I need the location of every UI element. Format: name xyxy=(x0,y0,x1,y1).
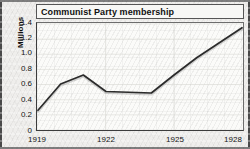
y-tick-label-0-6: 0.6 xyxy=(0,80,32,88)
chart-screenshot: Communist Party membership Millions xyxy=(0,0,250,149)
x-tick-label-1925: 1925 xyxy=(162,136,188,144)
x-tick-label-1922: 1922 xyxy=(93,136,119,144)
y-tick-label-0: 0 xyxy=(0,127,32,135)
x-tick-label-1928: 1928 xyxy=(220,136,246,144)
y-tick-label-0-8: 0.8 xyxy=(0,65,32,73)
y-axis-title: Millions xyxy=(16,17,25,48)
chart-title-banner: Communist Party membership xyxy=(36,4,244,19)
y-tick-label-1-0: 1.0 xyxy=(0,49,32,57)
y-tick-label-0-4: 0.4 xyxy=(0,96,32,104)
chart-plot-svg xyxy=(37,23,243,130)
plot-area xyxy=(36,22,244,131)
y-tick-label-0-2: 0.2 xyxy=(0,111,32,119)
x-tick-label-1919: 1919 xyxy=(24,136,50,144)
page-title: Communist Party membership xyxy=(37,7,174,17)
series-shadow xyxy=(38,29,242,112)
membership-line xyxy=(38,28,242,111)
gridlines-horizontal xyxy=(37,24,243,115)
